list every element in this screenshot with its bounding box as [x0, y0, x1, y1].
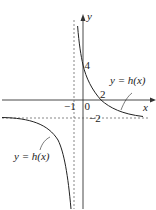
vertical-asymptote-label: −1 [64, 100, 76, 112]
function-graph: y x 0 4 2 −1 −2 y = h(x) y = h(x) [0, 0, 156, 209]
y-intercept-label: 4 [85, 59, 91, 71]
label-leader-right [121, 93, 132, 110]
y-axis-label: y [86, 10, 92, 22]
x-intercept-label: 2 [100, 88, 106, 100]
x-axis-arrow-icon [150, 98, 156, 103]
x-axis-label: x [142, 101, 148, 113]
label-leader-left [40, 137, 50, 150]
curve-label-left: y = h(x) [13, 150, 50, 163]
horizontal-asymptote-label: −2 [89, 112, 101, 124]
y-axis-arrow-icon [81, 14, 86, 21]
curve-label-right: y = h(x) [109, 74, 146, 87]
origin-label: 0 [85, 100, 91, 112]
curve-left-branch [2, 118, 71, 210]
